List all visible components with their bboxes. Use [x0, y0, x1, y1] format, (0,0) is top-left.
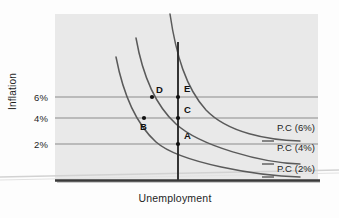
y-axis-title: Inflation: [7, 62, 18, 122]
y-tick-label-2: 2%: [22, 139, 48, 150]
y-tick-label-4: 4%: [22, 113, 48, 124]
data-point-a: [176, 142, 180, 146]
point-label-c: C: [184, 104, 191, 115]
phillips-curve-figure: Inflation 6% 4% 2% Unemployment P.C (6%)…: [0, 0, 339, 218]
y-tick-label-6: 6%: [22, 92, 48, 103]
data-points: [142, 95, 180, 146]
x-axis-title: Unemployment: [110, 192, 240, 204]
point-label-b: B: [140, 121, 147, 132]
data-point-b: [142, 116, 146, 120]
phillips-curves: [116, 14, 300, 177]
point-label-d: D: [156, 84, 163, 95]
data-point-d: [150, 95, 154, 99]
point-label-e: E: [184, 83, 190, 94]
data-point-c: [176, 116, 180, 120]
chart-vector-layer: [0, 0, 339, 218]
data-point-e: [176, 95, 180, 99]
curve-label-pc4: P.C (4%): [277, 142, 315, 153]
point-label-a: A: [184, 130, 191, 141]
curve-label-pc6: P.C (6%): [277, 122, 315, 133]
curve-label-pc2: P.C (2%): [277, 163, 315, 174]
